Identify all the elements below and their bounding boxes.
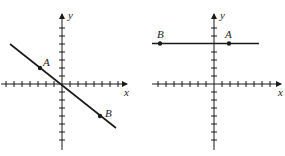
- right-y-axis-label: y: [219, 9, 225, 21]
- left-x-axis-label: x: [123, 86, 129, 98]
- diagram-canvas: A B y x: [0, 0, 285, 156]
- left-point-a: [38, 66, 42, 70]
- right-point-a: [227, 41, 231, 45]
- right-x-axis-label: x: [277, 86, 283, 98]
- left-point-b-label: B: [105, 107, 112, 119]
- left-point-b: [98, 114, 102, 118]
- left-graph: A B y x: [1, 9, 129, 150]
- right-graph: B A y x: [152, 9, 283, 150]
- left-point-a-label: A: [42, 56, 50, 68]
- left-y-axis-label: y: [67, 9, 73, 21]
- right-point-b-label: B: [157, 28, 164, 40]
- right-point-b: [158, 41, 162, 45]
- right-point-a-label: A: [224, 28, 232, 40]
